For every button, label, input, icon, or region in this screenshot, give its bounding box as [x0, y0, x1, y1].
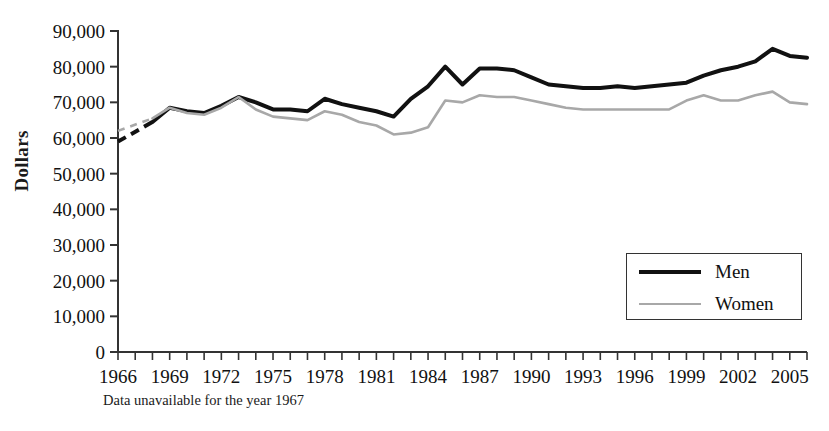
x-axis-tick-label: 1993 [564, 366, 602, 387]
chart-figure: Dollars 90,00080,00070,00060,00050,00040… [0, 0, 829, 431]
x-axis-tick-label: 1981 [357, 366, 395, 387]
x-axis-tick-label: 2005 [771, 366, 809, 387]
series-line-women [152, 92, 807, 135]
line-chart-plot: 90,00080,00070,00060,00050,00040,00030,0… [0, 0, 829, 431]
y-axis-tick-label: 50,000 [53, 164, 105, 185]
legend-line-women-icon [639, 303, 701, 305]
chart-legend: Men Women [626, 253, 802, 320]
y-axis-tick-label: 60,000 [53, 128, 105, 149]
y-axis-tick-label: 10,000 [53, 306, 105, 327]
y-axis-tick-label: 20,000 [53, 271, 105, 292]
y-axis-tick-label: 40,000 [53, 199, 105, 220]
legend-label-men: Men [715, 261, 750, 283]
y-axis-tick-label: 0 [96, 342, 106, 363]
y-axis-tick-label: 30,000 [53, 235, 105, 256]
legend-item-men: Men [627, 255, 801, 288]
chart-footnote: Data unavailable for the year 1967 [103, 392, 304, 409]
x-axis-tick-label: 1990 [512, 366, 550, 387]
series-line-men [152, 49, 807, 122]
x-axis-tick-label: 1978 [306, 366, 344, 387]
x-axis-tick-label: 1987 [461, 366, 499, 387]
x-axis-tick-label: 1966 [99, 366, 137, 387]
legend-item-women: Women [627, 287, 801, 320]
x-axis-tick-label: 1999 [667, 366, 705, 387]
x-axis-tick-label: 1984 [409, 366, 448, 387]
x-axis-tick-label: 1975 [254, 366, 292, 387]
x-axis-tick-label: 1969 [151, 366, 189, 387]
y-axis-tick-label: 70,000 [53, 92, 105, 113]
y-axis-tick-label: 90,000 [53, 21, 105, 42]
x-axis-tick-label: 1996 [616, 366, 654, 387]
x-axis-tick-label: 1972 [202, 366, 240, 387]
y-axis-tick-label: 80,000 [53, 57, 105, 78]
legend-label-women: Women [715, 293, 774, 315]
legend-line-men-icon [639, 270, 701, 274]
x-axis-tick-label: 2002 [719, 366, 757, 387]
